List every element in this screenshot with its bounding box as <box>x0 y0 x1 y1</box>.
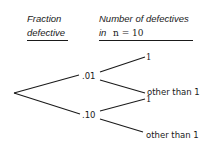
branch-label-01: .01 <box>82 71 96 81</box>
outcome-10-other: other than 1 <box>146 130 199 140</box>
branch-label-10: .10 <box>82 110 96 120</box>
tree-edges <box>14 57 145 132</box>
edge-01-to-1 <box>100 57 145 72</box>
edge-root-to-10 <box>14 93 80 114</box>
outcome-10-1: 1 <box>146 94 151 104</box>
tree-diagram: .01 .10 1 other than 1 1 other than 1 <box>0 0 209 147</box>
outcome-01-1: 1 <box>146 52 151 62</box>
edge-root-to-01 <box>14 75 79 93</box>
edge-01-to-other <box>100 80 145 93</box>
edge-10-to-other <box>100 119 143 132</box>
outcome-01-other: other than 1 <box>147 87 200 97</box>
edge-10-to-1 <box>100 99 145 111</box>
